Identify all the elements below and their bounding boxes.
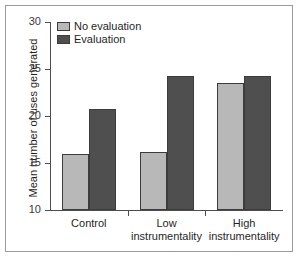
bar (89, 109, 116, 210)
y-tick-label: 30 (15, 16, 41, 27)
bar-chart-plot: Mean number of uses generated 1015202530… (0, 0, 299, 258)
x-tick-mark (205, 211, 206, 216)
y-tick-mark (45, 116, 50, 117)
x-category-label: Highinstrumentality (205, 217, 283, 243)
x-category-label: Lowinstrumentality (128, 217, 206, 243)
category-label-line1: Control (50, 217, 128, 230)
light-gray-swatch (57, 22, 70, 31)
bar (217, 83, 244, 210)
x-category-label: Control (50, 217, 128, 230)
y-axis-line (50, 22, 51, 211)
y-tick-mark (45, 69, 50, 70)
bar (62, 154, 89, 210)
category-label-line1: Low (128, 217, 206, 230)
legend-item: No evaluation (57, 20, 141, 32)
x-axis-line (50, 210, 283, 211)
y-tick-label: 10 (15, 204, 41, 215)
category-label-line2: instrumentality (205, 230, 283, 243)
legend-item: Evaluation (57, 33, 141, 45)
y-tick-mark (45, 163, 50, 164)
y-tick-mark (45, 210, 50, 211)
y-tick-label: 15 (15, 157, 41, 168)
legend-item-label: Evaluation (74, 34, 125, 45)
bar (167, 76, 194, 210)
category-label-line1: High (205, 217, 283, 230)
y-tick-label: 20 (15, 110, 41, 121)
legend-item-label: No evaluation (74, 21, 141, 32)
dark-gray-swatch (57, 35, 70, 44)
y-tick-mark (45, 22, 50, 23)
y-tick-label: 25 (15, 63, 41, 74)
chart-legend: No evaluationEvaluation (57, 20, 141, 46)
category-label-line2: instrumentality (128, 230, 206, 243)
x-tick-mark (128, 211, 129, 216)
bar (140, 152, 167, 210)
figure-container: Mean number of uses generated 1015202530… (0, 0, 299, 258)
bar (244, 76, 271, 210)
